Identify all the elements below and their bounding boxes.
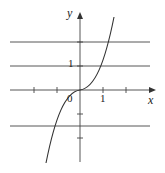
x-axis-label: x <box>148 93 153 108</box>
y-tick-label-1: 1 <box>68 57 74 69</box>
x-tick-label-1: 1 <box>100 92 106 104</box>
origin-label: 0 <box>67 92 73 104</box>
plot-canvas <box>0 0 165 173</box>
y-axis-label: y <box>67 6 72 21</box>
y-axis-arrow-icon <box>77 12 83 19</box>
